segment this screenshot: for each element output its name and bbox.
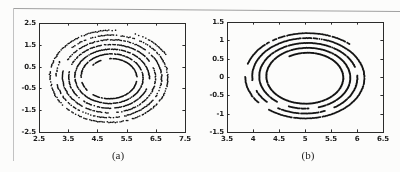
phase-plot-b: 3.544.555.566.51.510.50-0.5-1-1.5 [0,0,400,172]
y-tick-label: 0.5 [202,55,224,63]
y-tick-label: -1.5 [202,128,224,136]
x-tick-label: 4.5 [269,135,289,143]
y-tick-label: 1.5 [202,18,224,26]
plot-b-canvas [0,0,400,172]
x-tick-label: 3.5 [217,135,237,143]
x-tick-label: 5 [295,135,315,143]
y-tick-label: 1 [202,36,224,44]
x-tick-label: 6.5 [373,135,393,143]
scanned-figure-page: 2.53.54.55.56.57.52.51.50.5-0.5-1.5-2.5 … [0,0,400,172]
y-tick-label: -1 [202,110,224,118]
y-tick-label: 0 [202,73,224,81]
plot-b-caption: (b) [288,149,328,161]
x-tick-label: 4 [243,135,263,143]
x-tick-label: 5.5 [321,135,341,143]
x-tick-label: 6 [347,135,367,143]
y-tick-label: -0.5 [202,91,224,99]
